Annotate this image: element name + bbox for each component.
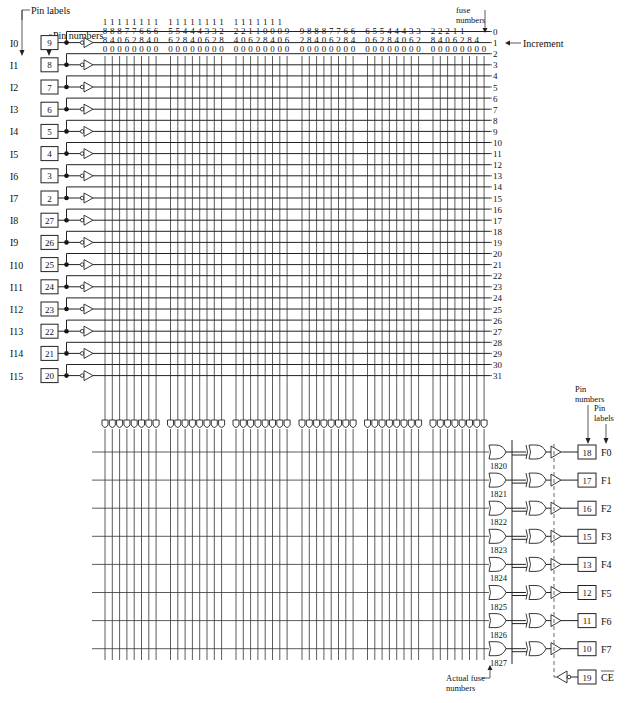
inverter-bubble-icon xyxy=(80,152,84,156)
input-i3: I36 xyxy=(10,98,93,116)
inverter-bubble-icon xyxy=(80,196,84,200)
output-f6: 182611F6 xyxy=(92,614,612,640)
annotation-actual-fuse-numbers: Actual fuse numbers xyxy=(446,665,493,693)
output-f3: 182315F3 xyxy=(92,529,612,555)
or-gate-icon xyxy=(489,614,506,628)
and-gate-icon xyxy=(467,420,473,428)
column-header: 560 xyxy=(373,26,378,54)
svg-text:0: 0 xyxy=(351,44,356,54)
or-gate-icon xyxy=(489,642,506,656)
input-pin-label: I13 xyxy=(10,326,23,337)
column-header: 1880 xyxy=(103,17,108,54)
and-gate-icon xyxy=(408,420,414,428)
row-number: 8 xyxy=(493,116,498,126)
and-gate-icon xyxy=(343,420,349,428)
inverter-buffer-icon xyxy=(84,326,93,336)
and-gate-icon xyxy=(430,420,436,428)
and-gate-icon xyxy=(401,420,407,428)
or-gate-icon xyxy=(489,501,506,515)
svg-text:0: 0 xyxy=(373,44,378,54)
svg-text:0: 0 xyxy=(212,44,217,54)
inverter-buffer-icon xyxy=(84,60,93,70)
and-gate-icon xyxy=(109,420,115,428)
inverter-buffer-icon xyxy=(84,126,93,136)
output-pin-label: F7 xyxy=(601,644,612,655)
row-number: 4 xyxy=(493,71,498,81)
tristate-buffer-icon xyxy=(551,530,561,542)
inverter-bubble-icon xyxy=(80,263,84,267)
xor-gate-icon xyxy=(529,473,546,487)
row-number: 6 xyxy=(493,94,498,104)
input-pin-number: 4 xyxy=(47,149,52,159)
svg-text:0: 0 xyxy=(125,44,130,54)
enable-pin-label: CE xyxy=(601,672,614,683)
svg-text:0: 0 xyxy=(176,44,181,54)
input-pin-label: I15 xyxy=(10,371,23,382)
and-gate-icon xyxy=(102,420,108,428)
actual-fuse-number: 1821 xyxy=(490,489,507,499)
input-pin-number: 23 xyxy=(45,305,55,315)
column-header: 120 xyxy=(460,26,465,54)
input-pin-label: I11 xyxy=(10,282,23,293)
xor-gate-icon xyxy=(529,557,546,571)
or-gate-icon xyxy=(489,557,506,571)
output-f4: 182413F4 xyxy=(92,557,612,583)
and-gate-icon xyxy=(372,420,378,428)
svg-text:0: 0 xyxy=(402,44,407,54)
output-pin-label: F0 xyxy=(601,447,612,458)
row-number: 20 xyxy=(493,249,503,259)
svg-text:0: 0 xyxy=(475,44,480,54)
row-number: 31 xyxy=(493,371,502,381)
and-gate-icon xyxy=(452,420,458,428)
column-header: 1520 xyxy=(176,17,181,54)
inverter-bubble-icon xyxy=(80,374,84,378)
xor-gate-icon xyxy=(529,614,546,628)
row-number: 26 xyxy=(493,316,503,326)
row-number: 28 xyxy=(493,338,503,348)
and-gate-icon xyxy=(233,420,239,428)
output-pin-number: 11 xyxy=(583,616,592,626)
product-term-section: 182018F0182117F1182216F2182315F3182413F4… xyxy=(92,420,612,677)
tristate-buffer-icon xyxy=(551,446,561,458)
and-gate-icon xyxy=(168,420,174,428)
row-number: 23 xyxy=(493,282,503,292)
column-header: 40 xyxy=(475,35,480,54)
and-gate-icon xyxy=(394,420,400,428)
output-pin-number: 17 xyxy=(583,476,593,486)
actual-fuse-number: 1825 xyxy=(490,602,507,612)
input-pin-label: I12 xyxy=(10,304,23,315)
svg-text:labels: labels xyxy=(594,413,614,423)
svg-text:0: 0 xyxy=(190,44,195,54)
svg-text:0: 0 xyxy=(482,44,487,54)
output-pin-label: F2 xyxy=(601,503,612,514)
actual-fuse-number: 1826 xyxy=(490,630,507,640)
svg-text:0: 0 xyxy=(445,44,450,54)
and-gate-icon xyxy=(124,420,130,428)
tristate-buffer-icon xyxy=(551,558,561,570)
column-header: 1240 xyxy=(234,17,239,54)
row-number: 17 xyxy=(493,216,503,226)
and-gate-icon xyxy=(197,420,203,428)
input-pin-number: 2 xyxy=(47,194,52,204)
column-header: 960 xyxy=(285,26,290,54)
and-gate-icon xyxy=(262,420,268,428)
input-pin-number: 21 xyxy=(45,349,54,359)
row-number: 11 xyxy=(493,149,502,159)
input-pin-label: I6 xyxy=(10,171,18,182)
svg-text:numbers: numbers xyxy=(446,683,475,693)
svg-text:0: 0 xyxy=(460,44,465,54)
svg-text:0: 0 xyxy=(132,44,137,54)
row-number: 19 xyxy=(493,238,503,248)
and-gate-icon xyxy=(146,420,152,428)
svg-text:Pin: Pin xyxy=(594,403,606,413)
output-pin-label: F6 xyxy=(601,616,612,627)
input-i8: I827 xyxy=(10,209,93,227)
input-pin-label: I9 xyxy=(10,237,18,248)
xor-gate-icon xyxy=(529,642,546,656)
svg-text:0: 0 xyxy=(416,44,421,54)
svg-text:0: 0 xyxy=(197,44,202,54)
and-gate-icon xyxy=(277,420,283,428)
inverter-bubble-icon xyxy=(80,285,84,289)
tristate-buffer-icon xyxy=(551,474,561,486)
svg-text:0: 0 xyxy=(278,44,283,54)
